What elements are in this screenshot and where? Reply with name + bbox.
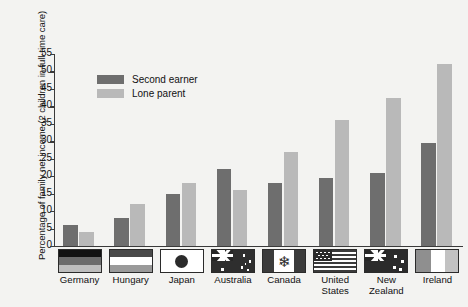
y-tick-label: 0 — [30, 239, 52, 250]
flag-hungary-icon — [109, 249, 153, 273]
y-tick-label: 40 — [30, 99, 52, 110]
y-tick-mark — [50, 246, 55, 247]
x-axis-category: Germany — [54, 249, 105, 286]
bar-lone-parent — [233, 190, 248, 246]
bar-second-earner — [217, 169, 232, 246]
x-axis-category-label: Germany — [54, 275, 105, 286]
legend-item: Second earner — [97, 73, 257, 86]
legend-label: Second earner — [132, 74, 198, 85]
flag-new-zealand-icon — [364, 249, 408, 273]
bar-second-earner — [166, 194, 181, 246]
x-axis-line — [54, 246, 463, 247]
bar-group — [259, 54, 310, 246]
x-axis-category-label: Australia — [207, 275, 258, 286]
flag-ireland-icon — [415, 249, 459, 273]
x-axis-category-label: Hungary — [105, 275, 156, 286]
y-tick-label: 10 — [30, 204, 52, 215]
y-tick-label: 55 — [30, 47, 52, 58]
legend: Second earnerLone parent — [97, 73, 257, 101]
bar-chart: Percentage of family net income (2 child… — [0, 0, 468, 307]
bar-second-earner — [319, 178, 334, 246]
bar-lone-parent — [386, 98, 401, 246]
bar-group — [310, 54, 361, 246]
x-axis-category-label: New Zealand — [361, 275, 412, 296]
bar-second-earner — [421, 143, 436, 246]
bar-group — [412, 54, 463, 246]
x-axis-category: Australia — [207, 249, 258, 286]
y-tick-label: 25 — [30, 152, 52, 163]
x-axis-category-label: Japan — [156, 275, 207, 286]
bar-second-earner — [114, 218, 129, 246]
legend-swatch — [97, 75, 124, 84]
y-tick-label: 50 — [30, 64, 52, 75]
legend-swatch — [97, 89, 124, 98]
flag-germany-icon — [58, 249, 102, 273]
flag-australia-icon — [211, 249, 255, 273]
flag-japan-icon — [160, 249, 204, 273]
bar-second-earner — [63, 225, 78, 246]
bar-group — [361, 54, 412, 246]
x-axis-categories: GermanyHungaryJapanAustralia❄CanadaUnite… — [54, 249, 463, 307]
y-tick-label: 20 — [30, 169, 52, 180]
bar-lone-parent — [335, 120, 350, 246]
bar-lone-parent — [130, 204, 145, 246]
y-tick-label: 45 — [30, 82, 52, 93]
x-axis-category-label: United States — [310, 275, 361, 296]
bar-lone-parent — [284, 152, 299, 246]
bar-lone-parent — [437, 64, 452, 246]
x-axis-category: Hungary — [105, 249, 156, 286]
y-tick-label: 35 — [30, 117, 52, 128]
x-axis-category: Ireland — [412, 249, 463, 286]
x-axis-category-label: Canada — [259, 275, 310, 286]
flag-canada-icon: ❄ — [262, 249, 306, 273]
y-tick-label: 15 — [30, 187, 52, 198]
x-axis-category: New Zealand — [361, 249, 412, 296]
legend-label: Lone parent — [132, 88, 185, 99]
bar-second-earner — [370, 173, 385, 246]
x-axis-category: Japan — [156, 249, 207, 286]
x-axis-category-label: Ireland — [412, 275, 463, 286]
x-axis-category: ❄Canada — [259, 249, 310, 286]
bar-lone-parent — [79, 232, 94, 246]
flag-united-states-icon — [313, 249, 357, 273]
bar-lone-parent — [182, 183, 197, 246]
y-tick-label: 5 — [30, 222, 52, 233]
y-tick-label: 30 — [30, 134, 52, 145]
x-axis-category: United States — [310, 249, 361, 296]
legend-item: Lone parent — [97, 87, 257, 100]
bar-second-earner — [268, 183, 283, 246]
